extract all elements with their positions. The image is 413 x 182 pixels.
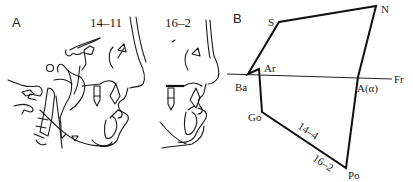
figure: A 14–11 16–2 bbox=[0, 0, 413, 182]
tracing-label-16-2: 16–2 bbox=[165, 15, 191, 30]
point-label-fr: Fr bbox=[394, 73, 404, 85]
point-label-s: S bbox=[268, 16, 274, 28]
panel-a: A 14–11 16–2 bbox=[8, 15, 219, 148]
point-label-go: Go bbox=[248, 111, 262, 123]
point-label-po: Po bbox=[348, 169, 360, 181]
point-label-ar: Ar bbox=[264, 62, 276, 74]
panel-b: B S N Ar Ba Fr A(α) Go Po 14–4 16–2 bbox=[227, 3, 404, 181]
segment-label-14-4: 14–4 bbox=[296, 120, 321, 142]
point-label-n: N bbox=[381, 3, 389, 15]
cephalometric-tracing-1 bbox=[8, 17, 146, 148]
point-label-a: A(α) bbox=[357, 82, 378, 95]
tracing-label-14-11: 14–11 bbox=[90, 15, 122, 30]
segment-label-16-2: 16–2 bbox=[311, 152, 336, 174]
point-label-ba: Ba bbox=[235, 81, 247, 93]
cephalometric-tracing-2 bbox=[160, 20, 219, 148]
panel-a-label: A bbox=[12, 15, 21, 30]
panel-b-label: B bbox=[233, 11, 242, 26]
frankfort-line bbox=[227, 74, 392, 79]
